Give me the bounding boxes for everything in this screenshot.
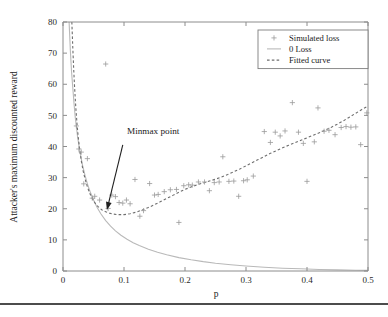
data-point-marker [217, 179, 222, 184]
data-point-marker [321, 129, 326, 134]
data-point-marker [174, 187, 179, 192]
data-point-marker [236, 194, 241, 199]
x-tick-label: 0.3 [240, 275, 252, 285]
data-point-marker [181, 183, 186, 188]
data-point-marker [231, 178, 236, 183]
legend-entry-label: 0 Loss [289, 44, 312, 54]
data-point-marker [162, 189, 167, 194]
legend-entry-label: Simulated loss [289, 33, 340, 43]
data-point-marker [326, 128, 331, 133]
data-point-marker [141, 208, 146, 213]
data-point-marker [85, 156, 90, 161]
data-point-marker [202, 179, 207, 184]
data-point-marker [212, 180, 217, 185]
data-point-marker [278, 133, 283, 138]
annotation-label: Minmax point [127, 126, 180, 136]
data-point-marker [220, 154, 225, 159]
data-point-marker [312, 139, 317, 144]
data-point-marker [128, 201, 133, 206]
y-axis-tick-labels: 01020304050607080 [48, 17, 58, 276]
data-point-marker [76, 146, 81, 151]
data-point-marker [103, 61, 108, 66]
data-point-marker [137, 214, 142, 219]
data-point-marker [262, 129, 267, 134]
data-point-marker [152, 192, 157, 197]
data-point-marker [97, 197, 102, 202]
y-tick-label: 0 [53, 266, 58, 276]
data-point-marker [282, 128, 287, 133]
data-point-marker [147, 181, 152, 186]
data-point-marker [176, 220, 181, 225]
data-point-marker [245, 177, 250, 182]
data-point-marker [315, 105, 320, 110]
data-point-marker [120, 201, 125, 206]
y-tick-label: 30 [48, 173, 58, 183]
data-point-marker [251, 173, 256, 178]
data-point-marker [273, 130, 278, 135]
y-tick-label: 20 [48, 204, 58, 214]
data-point-marker [343, 124, 348, 129]
y-tick-label: 60 [48, 79, 58, 89]
data-point-marker [332, 132, 337, 137]
data-point-marker [74, 123, 79, 128]
y-axis-label: Attacker's maximum discounted reward [9, 71, 19, 223]
data-point-marker [226, 179, 231, 184]
data-point-marker [268, 140, 273, 145]
figure-container: 00.10.20.30.40.5 01020304050607080 p Att… [0, 0, 388, 317]
data-point-marker [132, 177, 137, 182]
data-point-marker [124, 197, 129, 202]
chart-canvas: 00.10.20.30.40.5 01020304050607080 p Att… [0, 0, 388, 317]
y-tick-label: 70 [48, 48, 58, 58]
data-point-marker [296, 130, 301, 135]
data-point-marker [348, 125, 353, 130]
data-point-marker [156, 192, 161, 197]
series-simulated-loss [74, 61, 370, 225]
data-point-marker [290, 100, 295, 105]
x-axis-tick-labels: 00.10.20.30.40.5 [61, 275, 374, 285]
legend-entry-label: Fitted curve [289, 55, 330, 65]
data-point-marker [168, 187, 173, 192]
data-point-marker [339, 125, 344, 130]
x-tick-label: 0.2 [179, 275, 190, 285]
y-tick-label: 10 [48, 235, 58, 245]
data-point-marker [241, 178, 246, 183]
x-tick-label: 0 [61, 275, 66, 285]
x-axis-label: p [214, 289, 219, 299]
data-point-marker [358, 142, 363, 147]
data-point-marker [117, 200, 122, 205]
x-tick-label: 0.4 [301, 275, 313, 285]
y-tick-label: 40 [48, 142, 58, 152]
y-tick-label: 50 [48, 111, 58, 121]
legend: Simulated loss0 LossFitted curve [258, 30, 368, 69]
data-point-marker [301, 141, 306, 146]
data-point-marker [353, 124, 358, 129]
data-point-marker [207, 188, 212, 193]
data-point-marker [304, 179, 309, 184]
x-tick-label: 0.1 [118, 275, 129, 285]
x-tick-label: 0.5 [362, 275, 374, 285]
y-tick-label: 80 [48, 17, 58, 27]
data-point-marker [364, 110, 369, 115]
